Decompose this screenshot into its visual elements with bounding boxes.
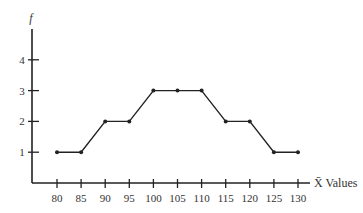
- x-tick-label: 95: [124, 192, 136, 204]
- axes: f X̄ Values: [29, 11, 357, 190]
- x-axis-label-text: X̄ Values: [314, 176, 358, 190]
- x-tick-label: 130: [290, 192, 307, 204]
- data-point: [127, 119, 131, 123]
- series-line: [57, 91, 298, 153]
- x-tick-label: 90: [100, 192, 112, 204]
- data-series: [55, 89, 300, 155]
- x-tick-label: 120: [242, 192, 259, 204]
- x-tick-label: 100: [145, 192, 162, 204]
- y-tick-label: 1: [19, 146, 25, 158]
- x-tick-label: 85: [76, 192, 88, 204]
- data-point: [151, 89, 155, 93]
- x-axis-label: X̄ Values: [314, 176, 358, 190]
- data-point: [103, 119, 107, 123]
- data-point: [176, 89, 180, 93]
- data-point: [55, 150, 59, 154]
- frequency-polygon-chart: f X̄ Values 1234 80859095100105110115120…: [0, 0, 363, 213]
- x-tick-label: 110: [194, 192, 211, 204]
- data-point: [272, 150, 276, 154]
- x-tick-label: 125: [266, 192, 283, 204]
- y-ticks: 1234: [19, 54, 39, 158]
- y-axis-label: f: [29, 11, 34, 25]
- y-tick-label: 2: [19, 115, 25, 127]
- y-tick-label: 3: [19, 85, 25, 97]
- data-point: [224, 119, 228, 123]
- data-point: [296, 150, 300, 154]
- x-tick-label: 80: [52, 192, 64, 204]
- x-tick-label: 115: [218, 192, 235, 204]
- data-point: [200, 89, 204, 93]
- x-tick-label: 105: [169, 192, 186, 204]
- data-point: [248, 119, 252, 123]
- data-point: [79, 150, 83, 154]
- y-tick-label: 4: [19, 54, 25, 66]
